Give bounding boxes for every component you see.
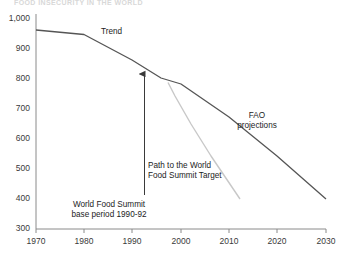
- annotation-base-line1: World Food Summit: [53, 200, 165, 210]
- x-tick-2000: 2000: [164, 237, 198, 246]
- y-tick-700: 700: [0, 104, 30, 112]
- x-tick-2020: 2020: [260, 237, 294, 246]
- y-tick-800: 800: [0, 74, 30, 82]
- annotation-base-line2: base period 1990-92: [53, 210, 165, 220]
- annotation-path-line1: Path to the World: [148, 161, 211, 171]
- x-tick-1980: 1980: [67, 237, 101, 246]
- chart-plot: [0, 0, 339, 260]
- annotation-fao-line2: projections: [229, 121, 285, 131]
- annotation-trend: Trend: [101, 27, 122, 37]
- y-tick-300: 300: [0, 224, 30, 232]
- y-tick-900: 900: [0, 44, 30, 52]
- y-tick-500: 500: [0, 164, 30, 172]
- annotation-fao-line1: FAO: [229, 111, 285, 121]
- annotation-path-line2: Food Summit Target: [148, 171, 222, 181]
- x-tick-1990: 1990: [115, 237, 149, 246]
- y-tick-400: 400: [0, 194, 30, 202]
- x-axis-ticks: [36, 229, 326, 233]
- y-tick-600: 600: [0, 134, 30, 142]
- x-tick-2030: 2030: [309, 237, 339, 246]
- y-tick-1000: 1,000: [0, 14, 30, 22]
- x-tick-1970: 1970: [19, 237, 53, 246]
- chart-container: FOOD INSECURITY IN THE WORLD: [0, 0, 339, 260]
- x-tick-2010: 2010: [212, 237, 246, 246]
